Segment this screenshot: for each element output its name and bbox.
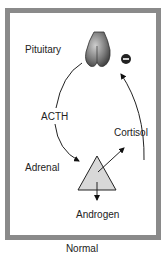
label-acth: ACTH [41, 111, 68, 122]
negative-feedback-icon [121, 54, 131, 64]
acth-arrow-lower [55, 124, 79, 161]
cortisol-output-arrow [98, 148, 124, 172]
label-adrenal: Adrenal [25, 162, 59, 173]
label-androgen: Androgen [76, 209, 119, 220]
pituitary-gland-icon [86, 32, 111, 67]
cortisol-feedback-arrow [121, 74, 144, 160]
caption: Normal [0, 243, 164, 254]
label-pituitary: Pituitary [25, 44, 61, 55]
acth-arrow-upper [56, 63, 82, 108]
label-cortisol: Cortisol [114, 127, 148, 138]
